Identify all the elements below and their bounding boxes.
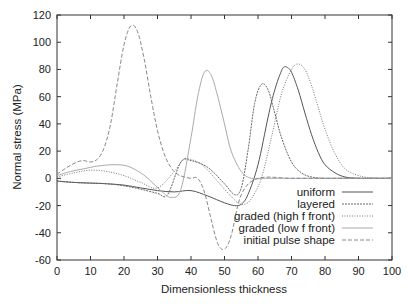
x-tick-label: 20 bbox=[118, 265, 130, 277]
x-tick-label: 40 bbox=[185, 265, 197, 277]
y-tick-label: -60 bbox=[35, 254, 51, 266]
y-tick-label: 40 bbox=[39, 118, 51, 130]
legend-label: graded (low f front) bbox=[238, 222, 335, 234]
x-tick-label: 10 bbox=[84, 265, 96, 277]
y-tick-label: 120 bbox=[33, 9, 51, 21]
chart: 0102030405060708090100 -60-40-2002040608… bbox=[0, 0, 409, 304]
x-tick-label: 80 bbox=[319, 265, 331, 277]
series-line-uniform bbox=[57, 67, 392, 206]
x-axis-title: Dimensionless thickness bbox=[161, 283, 287, 295]
x-tick-label: 100 bbox=[383, 265, 401, 277]
x-tick-labels: 0102030405060708090100 bbox=[54, 265, 401, 277]
legend-label: initial pulse shape bbox=[244, 234, 335, 246]
x-tick-label: 0 bbox=[54, 265, 60, 277]
series-line-initial-pulse-shape bbox=[57, 25, 392, 250]
y-axis-title: Normal stress (MPa) bbox=[11, 84, 23, 190]
y-tick-label: 60 bbox=[39, 91, 51, 103]
legend-label: graded (high f front) bbox=[234, 210, 335, 222]
legend: uniformlayeredgraded (high f front)grade… bbox=[234, 186, 373, 246]
x-tick-label: 30 bbox=[151, 265, 163, 277]
legend-label: layered bbox=[297, 198, 335, 210]
y-tick-label: 80 bbox=[39, 63, 51, 75]
x-tick-label: 60 bbox=[252, 265, 264, 277]
y-tick-label: 100 bbox=[33, 36, 51, 48]
y-tick-label: 0 bbox=[45, 172, 51, 184]
y-tick-label: -40 bbox=[35, 227, 51, 239]
x-tick-label: 50 bbox=[218, 265, 230, 277]
series-line-layered bbox=[57, 84, 392, 197]
y-tick-label: 20 bbox=[39, 145, 51, 157]
x-tick-label: 70 bbox=[285, 265, 297, 277]
y-tick-labels: -60-40-20020406080100120 bbox=[33, 9, 51, 266]
x-tick-label: 90 bbox=[352, 265, 364, 277]
legend-label: uniform bbox=[297, 186, 335, 198]
y-tick-label: -20 bbox=[35, 200, 51, 212]
series-lines bbox=[57, 25, 392, 250]
